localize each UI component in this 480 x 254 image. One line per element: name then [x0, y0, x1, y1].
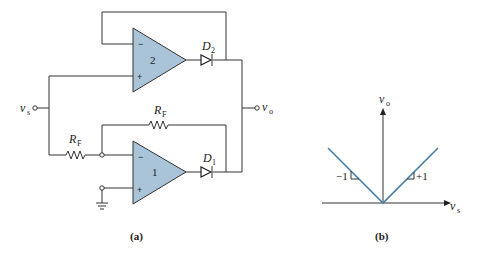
output-sub: o	[269, 107, 273, 116]
output-bus-wire	[242, 60, 255, 172]
opamp-1-number: 1	[152, 166, 158, 178]
circuit-diagram: 2 − + 1 − + D 2 v s R F R F D 1	[0, 0, 480, 254]
input-sub: s	[27, 108, 30, 117]
opamp-1-plus: +	[137, 185, 142, 195]
rf-feedback-label: R	[153, 103, 162, 117]
y-axis-sub: o	[386, 99, 390, 108]
opamp-1-minus-node	[100, 153, 104, 157]
d1-label: D	[202, 151, 212, 165]
opamp-2-plus: +	[137, 72, 142, 82]
rf-input-label: R	[68, 132, 77, 146]
y-axis-label: v	[379, 92, 385, 106]
transfer-graph	[322, 108, 451, 206]
x-axis-label: v	[450, 199, 456, 213]
opamp-2-minus: −	[138, 39, 143, 49]
ground-icon	[96, 203, 108, 209]
opamp-1-minus: −	[138, 152, 143, 162]
rf-input-sub: F	[77, 139, 82, 148]
input-terminal	[33, 106, 37, 110]
resistor-rf-input	[49, 151, 102, 159]
figure-a-caption: (a)	[130, 230, 143, 243]
y-axis-arrow-icon	[380, 108, 386, 115]
input-label: v	[20, 101, 26, 115]
rf-feedback-sub: F	[162, 110, 167, 119]
slope-right-label: +1	[416, 170, 428, 182]
opamp-2-number: 2	[150, 54, 156, 66]
opamp-1-plus-node	[100, 186, 104, 190]
diode-d1	[201, 166, 212, 178]
input-bus-wire	[37, 76, 49, 155]
slope-left-label: −1	[336, 170, 348, 182]
figure-b-caption: (b)	[375, 230, 389, 243]
output-label: v	[262, 100, 268, 114]
d2-label: D	[201, 39, 211, 53]
opamp-1-plus-wire	[102, 188, 133, 203]
d2-sub: 2	[211, 46, 215, 55]
diode-d2	[201, 54, 212, 66]
opamp-2	[133, 28, 186, 92]
output-terminal	[255, 106, 259, 110]
x-axis-sub: s	[457, 206, 460, 215]
d1-sub: 1	[212, 158, 216, 167]
